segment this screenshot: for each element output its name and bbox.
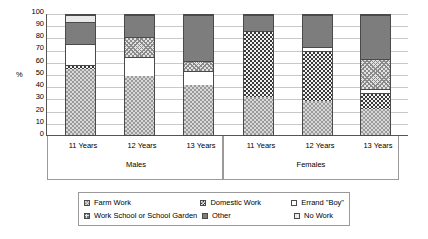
legend-swatch-other-icon <box>202 213 208 219</box>
y-tick-10: 10 <box>36 118 44 126</box>
bar-segment-other <box>244 15 273 31</box>
cat-label-males-13: 13 Years <box>173 141 229 150</box>
bar-males-11-years <box>65 14 96 136</box>
bar-segment-farm <box>244 97 273 135</box>
bar-segment-other <box>184 15 213 61</box>
legend-label-work-school-or-school-garden: Work School or School Garden <box>94 211 197 220</box>
bar-segment-workschool <box>361 59 390 89</box>
bar-segment-domestic <box>303 51 332 101</box>
bar-females-11-years <box>243 14 274 136</box>
bar-segment-errand <box>125 57 154 76</box>
bar-segment-farm <box>303 101 332 135</box>
bar-segment-farm <box>361 109 390 135</box>
bar-segment-farm <box>66 69 95 135</box>
cat-label-females-12: 12 Years <box>292 141 348 150</box>
legend-row-2: Work School or School Garden Other No Wo… <box>84 209 344 222</box>
cat-label-females-13: 13 Years <box>350 141 406 150</box>
cat-label-males-11: 11 Years <box>55 141 111 150</box>
y-tick-20: 20 <box>36 106 44 114</box>
bar-males-13-years <box>183 14 214 136</box>
bar-segment-farm <box>184 85 213 135</box>
y-tick-70: 70 <box>36 44 44 52</box>
y-tick-0: 0 <box>40 130 44 138</box>
group-label-males: Males <box>86 160 186 169</box>
bars-layer <box>46 14 408 136</box>
stacked-bar-chart: % 100 90 80 70 60 50 40 30 20 10 0 <box>0 0 428 239</box>
y-tick-30: 30 <box>36 93 44 101</box>
legend-label-domestic-work: Domestic Work <box>210 198 261 207</box>
y-tick-50: 50 <box>36 69 44 77</box>
chart-legend: Farm Work Domestic Work Errand "Boy" Wor… <box>78 192 350 226</box>
bar-females-13-years <box>360 14 391 136</box>
y-tick-60: 60 <box>36 57 44 65</box>
legend-label-no-work: No Work <box>304 211 333 220</box>
legend-swatch-work-school-icon <box>84 213 90 219</box>
y-axis: % 100 90 80 70 60 50 40 30 20 10 0 <box>14 8 44 142</box>
legend-item-other: Other <box>202 211 294 220</box>
legend-swatch-no-work-icon <box>294 213 300 219</box>
bar-segment-farm <box>125 76 154 135</box>
legend-item-no-work: No Work <box>294 211 333 220</box>
bar-males-12-years <box>124 14 155 136</box>
legend-label-farm-work: Farm Work <box>94 198 131 207</box>
legend-row-1: Farm Work Domestic Work Errand "Boy" <box>84 196 344 209</box>
bar-segment-other <box>66 22 95 44</box>
legend-label-errand-boy: Errand "Boy" <box>301 198 344 207</box>
legend-swatch-domestic-work-icon <box>200 200 206 206</box>
category-axis: 11 Years 12 Years 13 Years 11 Years 12 Y… <box>46 136 408 180</box>
bar-segment-other <box>125 15 154 37</box>
bar-segment-errand <box>184 71 213 84</box>
legend-label-other: Other <box>212 211 231 220</box>
bar-segment-errand <box>66 44 95 66</box>
group-label-females: Females <box>261 160 361 169</box>
y-tick-90: 90 <box>36 20 44 28</box>
bar-segment-other <box>361 15 390 59</box>
bar-segment-domestic <box>244 31 273 97</box>
cat-label-males-12: 12 Years <box>114 141 170 150</box>
y-axis-title: % <box>16 70 23 79</box>
legend-item-farm-work: Farm Work <box>84 198 200 207</box>
legend-item-work-school-or-school-garden: Work School or School Garden <box>84 211 202 220</box>
y-tick-40: 40 <box>36 81 44 89</box>
legend-swatch-errand-boy-icon <box>291 200 297 206</box>
legend-swatch-farm-work-icon <box>84 200 90 206</box>
plot-area <box>46 14 408 136</box>
bar-females-12-years <box>302 14 333 136</box>
bar-segment-domestic <box>361 93 390 109</box>
y-tick-80: 80 <box>36 32 44 40</box>
cat-label-females-11: 11 Years <box>233 141 289 150</box>
bar-segment-other <box>303 15 332 47</box>
legend-item-errand-boy: Errand "Boy" <box>291 198 344 207</box>
legend-item-domestic-work: Domestic Work <box>200 198 291 207</box>
bar-segment-nowork <box>66 15 95 22</box>
y-tick-100: 100 <box>31 8 44 16</box>
bar-segment-workschool <box>184 61 213 72</box>
bar-segment-workschool <box>125 37 154 57</box>
